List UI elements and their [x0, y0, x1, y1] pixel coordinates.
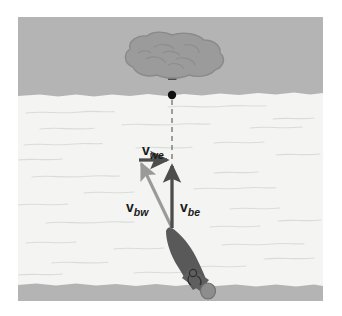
label-v-we-sub: we	[150, 149, 164, 161]
reference-dot	[168, 91, 176, 99]
label-v-we-main: v	[142, 142, 150, 158]
label-v-be-main: v	[180, 199, 188, 215]
near-shore-band	[18, 284, 323, 302]
river-diagram: vwe vbw vbe	[18, 17, 323, 301]
boat-motor	[201, 283, 216, 299]
label-v-be-sub: be	[188, 206, 200, 218]
label-v-bw-sub: bw	[134, 206, 149, 218]
figure-canvas: vwe vbw vbe	[18, 17, 323, 301]
label-v-bw-main: v	[126, 199, 134, 215]
